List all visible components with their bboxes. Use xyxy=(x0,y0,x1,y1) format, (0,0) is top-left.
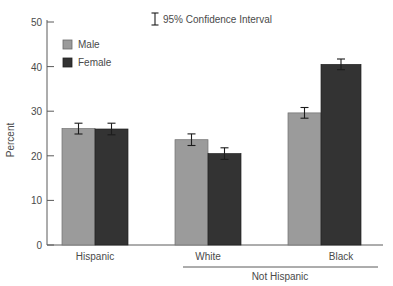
x-label-hispanic: Hispanic xyxy=(76,251,114,262)
legend-swatch-female xyxy=(63,58,72,67)
ci-annotation-label: 95% Confidence Interval xyxy=(163,14,272,25)
group-label-not-hispanic: Not Hispanic xyxy=(252,271,309,282)
bar-hispanic-male xyxy=(62,129,95,245)
y-tick-label-0: 0 xyxy=(36,240,42,251)
x-label-black: Black xyxy=(329,251,354,262)
bar-white-male xyxy=(175,140,208,245)
x-label-white: White xyxy=(195,251,221,262)
y-axis-title: Percent xyxy=(5,123,16,158)
legend-label-male: Male xyxy=(78,39,100,50)
y-tick-label-30: 30 xyxy=(31,106,43,117)
y-tick-label-50: 50 xyxy=(31,17,43,28)
y-tick-label-40: 40 xyxy=(31,62,43,73)
legend-label-female: Female xyxy=(78,57,112,68)
legend-swatch-male xyxy=(63,40,72,49)
bar-white-female xyxy=(208,154,241,245)
y-tick-label-10: 10 xyxy=(31,195,43,206)
chart-canvas: 50 40 30 20 10 0 Percent xyxy=(0,0,393,286)
y-tick-label-20: 20 xyxy=(31,151,43,162)
bar-hispanic-female xyxy=(95,129,128,245)
bar-chart: 50 40 30 20 10 0 Percent xyxy=(0,0,393,286)
bar-black-female xyxy=(321,64,361,245)
bar-black-male xyxy=(288,113,321,245)
